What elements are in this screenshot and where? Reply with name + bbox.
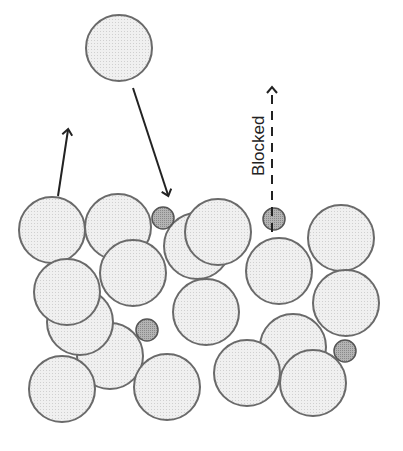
small-particle [136,319,158,341]
large-particle [19,197,85,263]
small-particle [263,208,285,230]
escape-arrow [58,130,68,196]
large-particle [280,350,346,416]
large-particle [185,199,251,265]
falling-particle [86,15,152,81]
small-particle [334,340,356,362]
large-particle [313,270,379,336]
large-particle [246,238,312,304]
large-particle [173,279,239,345]
large-particle [134,354,200,420]
small-particle [152,207,174,229]
large-particle [308,205,374,271]
large-particle [34,259,100,325]
blocked-label: Blocked [249,116,268,176]
deposit-arrow [133,88,168,195]
large-particle [29,356,95,422]
large-particle [214,340,280,406]
large-particles [19,194,379,422]
particle-packing-diagram: Blocked [0,0,403,451]
large-particle [100,240,166,306]
